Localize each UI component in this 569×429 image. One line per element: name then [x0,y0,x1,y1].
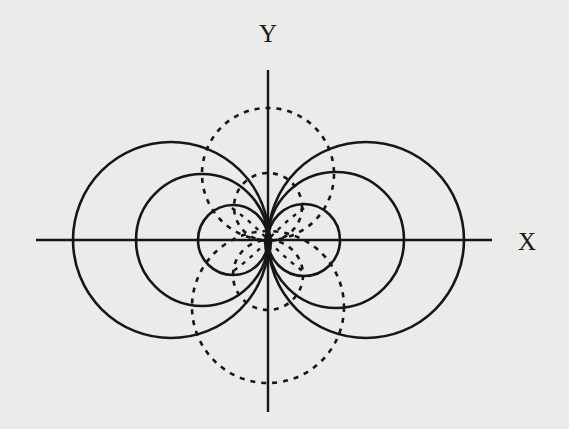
y-axis-label: Y [259,20,277,48]
x-axis-label: X [518,228,536,256]
dipole-field-diagram [0,0,569,429]
origin-dot [264,229,272,257]
